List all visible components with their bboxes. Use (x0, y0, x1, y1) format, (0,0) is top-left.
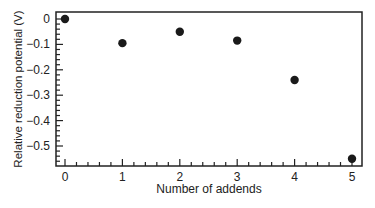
data-points (61, 15, 356, 163)
y-tick-labels: 0−0.1−0.2−0.3−0.4−0.5 (26, 12, 50, 153)
data-point (176, 28, 184, 36)
y-tick-label: −0.1 (26, 37, 50, 51)
data-point (118, 39, 126, 47)
data-point (348, 155, 356, 163)
data-point (233, 36, 241, 44)
y-tick-label: −0.4 (26, 114, 50, 128)
y-tick-label: −0.2 (26, 63, 50, 77)
x-axis-label: Number of addends (156, 182, 261, 196)
x-tick-label: 0 (62, 170, 69, 184)
scatter-chart: 0−0.1−0.2−0.3−0.4−0.5 012345 Number of a… (0, 0, 375, 208)
plot-frame (56, 12, 362, 166)
x-tick-label: 1 (119, 170, 126, 184)
data-point (61, 15, 69, 23)
x-tick-label: 4 (291, 170, 298, 184)
y-tick-label: −0.3 (26, 88, 50, 102)
y-tick-label: 0 (43, 12, 50, 26)
x-tick-label: 5 (349, 170, 356, 184)
data-point (290, 76, 298, 84)
axis-ticks (56, 19, 352, 166)
y-axis-label: Relative reduction potential (V) (12, 10, 24, 167)
y-tick-label: −0.5 (26, 139, 50, 153)
